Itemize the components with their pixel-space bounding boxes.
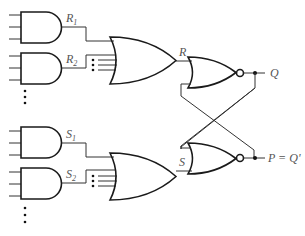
ellipsis-dots-r	[24, 90, 27, 105]
nor-gate-p	[188, 143, 244, 174]
label-r1: R1	[65, 11, 77, 27]
feedback-p-to-nor-q	[181, 84, 254, 158]
label-r2: R2	[65, 52, 77, 68]
label-s: S	[179, 155, 185, 169]
ellipsis-dots-or-r	[92, 59, 95, 72]
junction-dot-p	[253, 156, 257, 160]
label-p: P = Q'	[267, 151, 301, 165]
and-gate-r2	[9, 53, 61, 84]
and-gate-s2	[9, 168, 62, 199]
or-gate-s	[110, 153, 176, 200]
label-s2: S2	[66, 167, 76, 183]
label-r: R	[178, 45, 187, 59]
label-s1: S1	[66, 127, 76, 143]
and-gate-s1	[9, 127, 62, 158]
or-s-extra-inputs	[98, 176, 117, 186]
ellipsis-dots-s	[24, 207, 27, 224]
label-q: Q	[270, 66, 279, 80]
or-gate-r	[110, 37, 176, 84]
logic-circuit-diagram: R1 R2 S1 S2 R S Q P = Q'	[0, 0, 305, 236]
wire-r1	[62, 27, 114, 41]
and-gate-r1	[9, 12, 62, 43]
or-r-extra-inputs	[98, 60, 117, 70]
wire-s1	[62, 143, 114, 157]
ellipsis-dots-or-s	[92, 175, 95, 188]
nor-gate-q	[188, 57, 244, 88]
